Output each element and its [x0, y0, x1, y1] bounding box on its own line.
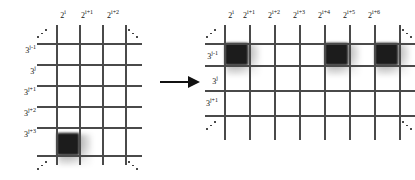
- left-hline-4: [37, 127, 142, 129]
- right-dots-bottom-left-icon: [205, 119, 219, 131]
- left-hline-1: [37, 64, 142, 66]
- right-hline-0: [205, 43, 415, 45]
- left-dots-top-right-icon: [127, 27, 141, 39]
- left-hline-5: [37, 155, 142, 157]
- left-vline-0: [56, 25, 58, 165]
- left-vline-3: [125, 25, 127, 165]
- left-dots-top-left-icon: [36, 27, 50, 39]
- right-panel: 2i 2i+1 2i+2 2i+3 2i+4 2i+5 2i+6 3j-1 3j…: [185, 0, 415, 180]
- left-hline-0: [37, 43, 142, 45]
- right-hline-2: [205, 90, 415, 92]
- left-dots-bottom-right-icon: [127, 159, 141, 171]
- right-hline-3: [205, 115, 415, 117]
- left-dots-bottom-left-icon: [36, 159, 50, 171]
- right-dots-bottom-right-icon: [401, 119, 415, 131]
- left-hline-3: [37, 106, 142, 108]
- right-grid-lines: [185, 0, 415, 180]
- right-hline-1: [205, 65, 415, 67]
- figure-root: 2i 2i+1 2i+2 3j-1 3j 3j+1 3j+2 3j+3: [0, 0, 415, 180]
- left-panel: 2i 2i+1 2i+2 3j-1 3j 3j+1 3j+2 3j+3: [0, 0, 160, 180]
- right-dots-top-left-icon: [205, 27, 219, 39]
- left-vline-2: [102, 25, 104, 165]
- right-dots-top-right-icon: [401, 27, 415, 39]
- left-hline-2: [37, 85, 142, 87]
- left-vline-1: [79, 25, 81, 165]
